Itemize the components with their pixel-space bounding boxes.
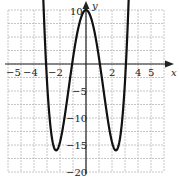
graph-figure: y x −5 −4 −2 2 4 5 10 −5 −10 −15 −20: [0, 0, 179, 179]
y-tick-neg20: −20: [66, 167, 87, 178]
y-tick-neg10: −10: [66, 113, 87, 124]
y-tick-10: 10: [70, 6, 83, 17]
y-axis-arrow-icon: [83, 1, 90, 9]
y-axis-label: y: [91, 0, 98, 11]
y-tick-neg5: −5: [72, 86, 87, 97]
polynomial-graph: y x −5 −4 −2 2 4 5 10 −5 −10 −15 −20: [0, 0, 179, 179]
x-tick-neg4: −4: [23, 67, 38, 78]
x-tick-neg5: −5: [6, 67, 21, 78]
x-tick-4: 4: [135, 67, 141, 78]
y-tick-neg15: −15: [66, 140, 87, 151]
x-axis-label: x: [171, 67, 177, 78]
x-tick-2: 2: [109, 67, 115, 78]
x-tick-5: 5: [148, 67, 154, 78]
x-tick-neg2: −2: [48, 67, 63, 78]
